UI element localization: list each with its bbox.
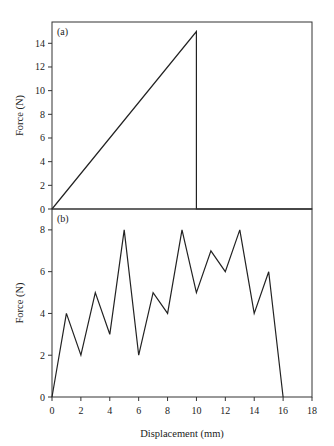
panel-a: 02468101214 (a) Force (N) xyxy=(14,22,312,215)
x-tick-label: 2 xyxy=(78,405,83,416)
x-tick-label: 18 xyxy=(307,405,317,416)
panel-a-y-ticks: 02468101214 xyxy=(35,38,52,215)
y-tick-label: 6 xyxy=(40,266,45,277)
y-tick-label: 12 xyxy=(35,61,45,72)
y-tick-label: 2 xyxy=(40,350,45,361)
x-axis-title: Displacement (mm) xyxy=(140,428,224,440)
x-tick-label: 10 xyxy=(191,405,201,416)
panel-b: 02468 (b) Force (N) xyxy=(14,209,312,403)
x-tick-label: 8 xyxy=(165,405,170,416)
y-tick-label: 0 xyxy=(40,392,45,403)
x-tick-label: 12 xyxy=(220,405,230,416)
x-tick-label: 14 xyxy=(249,405,259,416)
panel-b-frame xyxy=(52,209,312,397)
x-tick-label: 6 xyxy=(136,405,141,416)
y-tick-label: 0 xyxy=(40,204,45,215)
panel-b-tag: (b) xyxy=(57,213,69,225)
x-tick-label: 16 xyxy=(278,405,288,416)
x-tick-label: 0 xyxy=(50,405,55,416)
y-tick-label: 10 xyxy=(35,85,45,96)
panel-b-y-ticks: 02468 xyxy=(40,224,52,402)
panel-b-y-axis-title: Force (N) xyxy=(14,282,26,324)
x-axis-ticks: 024681012141618 xyxy=(50,397,318,416)
y-tick-label: 14 xyxy=(35,38,45,49)
x-tick-label: 4 xyxy=(107,405,112,416)
y-tick-label: 4 xyxy=(40,156,45,167)
y-tick-label: 6 xyxy=(40,132,45,143)
y-tick-label: 8 xyxy=(40,224,45,235)
figure: 02468101214 (a) Force (N) 02468 (b) Forc… xyxy=(0,0,334,446)
panel-a-force-line xyxy=(52,32,312,210)
y-tick-label: 4 xyxy=(40,308,45,319)
y-tick-label: 2 xyxy=(40,180,45,191)
panel-b-force-line xyxy=(52,230,283,397)
y-tick-label: 8 xyxy=(40,109,45,120)
panel-a-tag: (a) xyxy=(57,26,68,38)
panel-a-y-axis-title: Force (N) xyxy=(14,94,26,136)
